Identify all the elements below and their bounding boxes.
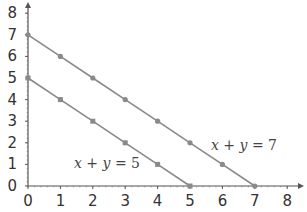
y-tick-label: 6 bbox=[7, 47, 17, 65]
circle-marker-icon bbox=[220, 162, 225, 167]
circle-marker-icon bbox=[123, 97, 128, 102]
x-tick-label: 8 bbox=[282, 192, 292, 210]
x-tick-label: 4 bbox=[153, 192, 163, 210]
square-marker-icon bbox=[155, 162, 160, 167]
circle-marker-icon bbox=[25, 32, 30, 37]
label-x-plus-y-equals-7: x + y = 7 bbox=[211, 137, 277, 153]
axes bbox=[25, 2, 304, 189]
x-tick-label: 7 bbox=[250, 192, 260, 210]
x-tick-label: 0 bbox=[23, 192, 33, 210]
x-tick-label: 3 bbox=[120, 192, 130, 210]
circle-marker-icon bbox=[58, 54, 63, 59]
square-marker-icon bbox=[58, 97, 63, 102]
y-tick-label: 4 bbox=[7, 91, 17, 109]
y-tick-label: 7 bbox=[7, 26, 17, 44]
y-tick-label: 3 bbox=[7, 112, 17, 130]
label-x-plus-y-equals-5: x + y = 5 bbox=[74, 155, 140, 171]
x-tick-label: 2 bbox=[88, 192, 98, 210]
square-marker-icon bbox=[26, 76, 31, 81]
square-marker-icon bbox=[188, 184, 193, 189]
tick-labels: 012345678012345678 bbox=[7, 4, 292, 210]
y-tick-label: 1 bbox=[7, 155, 17, 173]
x-tick-label: 1 bbox=[56, 192, 66, 210]
circle-marker-icon bbox=[187, 140, 192, 145]
circle-marker-icon bbox=[252, 183, 257, 188]
y-tick-label: 2 bbox=[7, 134, 17, 152]
y-tick-label: 8 bbox=[7, 4, 17, 22]
series-lines bbox=[25, 32, 257, 188]
square-marker-icon bbox=[90, 119, 95, 124]
circle-marker-icon bbox=[90, 75, 95, 80]
x-tick-label: 6 bbox=[218, 192, 228, 210]
y-tick-label: 0 bbox=[7, 177, 17, 195]
y-tick-label: 5 bbox=[7, 69, 17, 87]
x-axis-arrow-icon bbox=[298, 183, 304, 189]
line-chart: 012345678012345678 x + y = 7 x + y = 5 bbox=[0, 0, 307, 212]
square-marker-icon bbox=[123, 140, 128, 145]
circle-marker-icon bbox=[155, 119, 160, 124]
x-tick-label: 5 bbox=[185, 192, 195, 210]
y-axis-arrow-icon bbox=[25, 2, 31, 8]
